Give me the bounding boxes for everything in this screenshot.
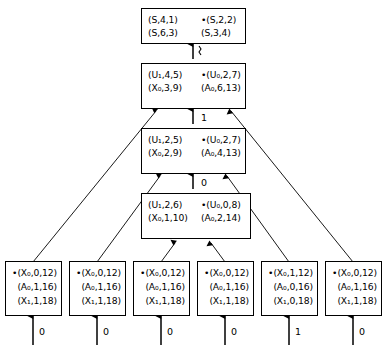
state-item: (A₀,2,14): [201, 211, 241, 224]
item-text: (A₀,4,13): [201, 147, 241, 158]
leaf-item: •(X₀,0,12): [201, 266, 249, 280]
leaf-item: (X₁,1,18): [9, 294, 57, 308]
fan-3-right: [211, 243, 225, 262]
leaf-node-2[interactable]: •(X₀,0,12) (A₀,1,16) (X₁,1,18): [69, 261, 126, 316]
state-item: •(U₀,0,8): [201, 198, 241, 211]
leaf-item: (X₁,1,18): [201, 294, 249, 308]
leaf-node-1[interactable]: •(X₀,0,12) (A₀,1,16) (X₁,1,18): [5, 261, 62, 316]
state-item-row: (S,4,1) •(S,2,2): [148, 13, 240, 26]
state-item: (S,3,4): [201, 26, 231, 39]
item-text: (X₁,1,18): [81, 295, 121, 306]
terminal-label-5: 1: [295, 327, 301, 337]
fan-1-left: [33, 111, 156, 262]
item-text: (X₀,3,9): [148, 82, 182, 93]
item-text: (A₀,1,16): [17, 281, 57, 292]
item-text: (A₀,2,14): [201, 212, 241, 223]
leaf-item: •(X₀,0,12): [329, 266, 377, 280]
state-item: (U₁,2,5): [148, 133, 201, 146]
item-text: (X₀,1,12): [273, 267, 313, 278]
item-text: (A₀,0,16): [273, 281, 313, 292]
state-item: (U₁,4,5): [148, 68, 201, 81]
item-text: (A₀,6,13): [201, 82, 241, 93]
item-text: (S,2,2): [206, 14, 236, 25]
terminal-label-6: 0: [359, 327, 365, 337]
item-text: (A₀,1,16): [337, 281, 377, 292]
terminal-label-3: 0: [167, 327, 173, 337]
item-text: (S,6,3): [148, 27, 178, 38]
state-item-row: (U₁,4,5) •(U₀,2,7): [148, 68, 240, 81]
item-text: (X₀,0,12): [17, 267, 57, 278]
leaf-item: (A₀,1,16): [329, 280, 377, 294]
state-item: (U₁,2,6): [148, 198, 201, 211]
leaf-item: (A₀,1,16): [9, 280, 57, 294]
item-text: (X₁,1,18): [17, 295, 57, 306]
item-text: (U₁,2,6): [148, 199, 182, 210]
edge-label-2-3: 0: [201, 178, 207, 188]
item-text: (U₁,4,5): [148, 69, 182, 80]
leaf-node-6[interactable]: •(X₀,0,12) (A₀,1,16) (X₁,1,18): [325, 261, 382, 316]
leaf-item: (A₀,1,16): [137, 280, 185, 294]
item-text: (U₀,2,7): [206, 134, 240, 145]
state-node-3[interactable]: (U₁,2,6) •(U₀,0,8) (X₀,1,10) (A₀,2,14): [141, 193, 251, 239]
leaf-node-5[interactable]: •(X₀,1,12) (A₀,0,16) (X₁,0,18): [261, 261, 318, 316]
item-text: (S,4,1): [148, 14, 178, 25]
fan-1-right: [231, 111, 353, 262]
edge-label-1-2: 1: [201, 113, 207, 123]
leaf-item: (X₁,1,18): [329, 294, 377, 308]
leaf-node-3[interactable]: •(X₀,0,12) (A₀,1,16) (X₁,1,18): [133, 261, 190, 316]
item-text: (X₁,1,18): [337, 295, 377, 306]
item-text: (X₁,0,18): [273, 295, 313, 306]
leaf-item: (X₁,1,18): [73, 294, 121, 308]
item-text: (X₀,2,9): [148, 147, 182, 158]
state-item: (X₀,1,10): [148, 211, 201, 224]
fan-3-left: [161, 243, 175, 262]
state-node-1[interactable]: (U₁,4,5) •(U₀,2,7) (X₀,3,9) (A₀,6,13): [141, 63, 246, 109]
item-text: (X₁,1,18): [209, 295, 249, 306]
leaf-item: (A₀,0,16): [265, 280, 313, 294]
state-item: •(U₀,2,7): [201, 68, 241, 81]
state-item: (X₀,3,9): [148, 81, 201, 94]
terminal-label-1: 0: [39, 327, 45, 337]
item-text: (X₀,0,12): [145, 267, 185, 278]
state-item: (A₀,4,13): [201, 146, 241, 159]
item-text: (X₀,0,12): [337, 267, 377, 278]
leaf-item: •(X₀,0,12): [9, 266, 57, 280]
spine-tick-top: [199, 46, 201, 55]
state-item-row: (X₀,2,9) (A₀,4,13): [148, 146, 240, 159]
item-text: (X₁,1,18): [145, 295, 185, 306]
state-item: •(U₀,2,7): [201, 133, 241, 146]
state-item: (X₀,2,9): [148, 146, 201, 159]
state-item-row: (U₁,2,6) •(U₀,0,8): [148, 198, 245, 211]
leaf-item: (A₀,1,16): [73, 280, 121, 294]
leaf-item: (A₀,1,16): [201, 280, 249, 294]
diagram-canvas: (S,4,1) •(S,2,2) (S,6,3) (S,3,4) (U₁,4,5…: [0, 0, 386, 353]
item-text: (A₀,1,16): [209, 281, 249, 292]
item-text: (U₁,2,5): [148, 134, 182, 145]
state-item-row: (X₀,3,9) (A₀,6,13): [148, 81, 240, 94]
leaf-item: (X₁,0,18): [265, 294, 313, 308]
terminal-label-4: 0: [231, 327, 237, 337]
state-item-row: (S,6,3) (S,3,4): [148, 26, 240, 39]
item-text: (S,3,4): [201, 27, 231, 38]
state-item: •(S,2,2): [201, 13, 236, 26]
leaf-item: •(X₀,0,12): [73, 266, 121, 280]
state-item: (A₀,6,13): [201, 81, 241, 94]
leaf-item: •(X₀,1,12): [265, 266, 313, 280]
item-text: (X₀,0,12): [209, 267, 249, 278]
state-item: (S,6,3): [148, 26, 201, 39]
leaf-item: •(X₀,0,12): [137, 266, 185, 280]
state-item: (S,4,1): [148, 13, 201, 26]
state-node-2[interactable]: (U₁,2,5) •(U₀,2,7) (X₀,2,9) (A₀,4,13): [141, 128, 246, 174]
item-text: (U₀,2,7): [206, 69, 240, 80]
item-text: (A₀,1,16): [81, 281, 121, 292]
leaf-node-4[interactable]: •(X₀,0,12) (A₀,1,16) (X₁,1,18): [197, 261, 254, 316]
state-item-row: (U₁,2,5) •(U₀,2,7): [148, 133, 240, 146]
item-text: (U₀,0,8): [206, 199, 240, 210]
leaf-item: (X₁,1,18): [137, 294, 185, 308]
terminal-label-2: 0: [103, 327, 109, 337]
item-text: (A₀,1,16): [145, 281, 185, 292]
state-node-0[interactable]: (S,4,1) •(S,2,2) (S,6,3) (S,3,4): [141, 8, 246, 44]
item-text: (X₀,1,10): [148, 212, 188, 223]
item-text: (X₀,0,12): [81, 267, 121, 278]
state-item-row: (X₀,1,10) (A₀,2,14): [148, 211, 245, 224]
